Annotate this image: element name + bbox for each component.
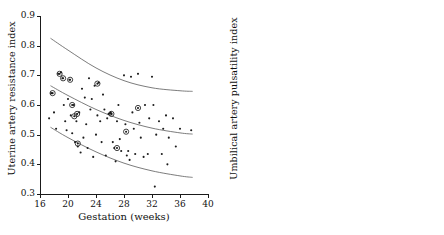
x-axis-tick (180, 195, 181, 198)
data-point (76, 113, 78, 115)
reference-percentile-line (51, 86, 193, 134)
y-axis-tick-label: 0.6 (8, 99, 35, 109)
data-point (110, 113, 112, 115)
data-point (130, 76, 132, 78)
data-point (147, 153, 149, 155)
data-point (80, 151, 82, 153)
plot-area-left: 0.30.40.50.60.70.80.916202428323640 (40, 16, 208, 194)
x-axis-tick-label: 20 (56, 199, 80, 209)
y-axis-tick-label: 0.5 (8, 129, 35, 139)
data-point (166, 163, 168, 165)
data-point (162, 128, 164, 130)
data-point (129, 159, 131, 161)
data-point (127, 150, 129, 152)
data-point (82, 137, 84, 139)
y-axis-label-right-text: Umbilical artery pulsatility index (228, 17, 239, 179)
figure-caption (0, 221, 444, 235)
x-axis-tick (68, 195, 69, 198)
x-axis-tick (124, 195, 125, 198)
data-point (126, 154, 128, 156)
data-point (154, 186, 156, 188)
data-point (140, 137, 142, 139)
reference-percentile-line (51, 38, 193, 91)
data-point (116, 147, 118, 149)
data-point (115, 160, 117, 162)
data-point (88, 77, 90, 79)
data-point (155, 134, 157, 136)
data-point (152, 104, 154, 106)
x-axis-tick (208, 195, 209, 198)
data-point (84, 97, 86, 99)
data-layer (40, 16, 208, 194)
data-point (131, 111, 133, 113)
y-axis-label-right: Umbilical artery pulsatility index (224, 0, 242, 196)
data-point (161, 153, 163, 155)
data-point (143, 156, 145, 158)
data-point (63, 104, 65, 106)
data-point (59, 73, 61, 75)
data-point (138, 122, 140, 124)
x-axis-tick-label: 24 (84, 199, 108, 209)
data-point (148, 117, 150, 119)
x-axis-tick (152, 195, 153, 198)
data-point (112, 141, 114, 143)
data-point (151, 76, 153, 78)
data-point (71, 104, 73, 106)
data-point (85, 123, 87, 125)
data-point (91, 98, 93, 100)
data-point (95, 134, 97, 136)
data-point (48, 117, 50, 119)
x-axis-tick-label: 32 (140, 199, 164, 209)
data-point (134, 153, 136, 155)
figure-two-panel-scatter: Uterine artery resistance index 0.30.40.… (0, 0, 444, 235)
x-axis-tick-label: 36 (168, 199, 192, 209)
data-point (172, 117, 174, 119)
data-point (117, 104, 119, 106)
data-point (158, 120, 160, 122)
data-point (125, 131, 127, 133)
data-point (102, 94, 104, 96)
data-point (119, 138, 121, 140)
panel-umbilical-artery: Umbilical artery pulsatility index 0.40.… (222, 0, 444, 235)
data-point (168, 137, 170, 139)
data-point (105, 154, 107, 156)
y-axis-tick-label: 0.8 (8, 40, 35, 50)
data-point (66, 129, 68, 131)
data-point (52, 92, 54, 94)
data-point (123, 74, 125, 76)
data-point (77, 143, 79, 145)
data-point (53, 111, 55, 113)
data-point (103, 108, 105, 110)
x-axis-tick-label: 40 (196, 199, 220, 209)
data-point (71, 132, 73, 134)
data-point (101, 141, 103, 143)
x-axis-tick (40, 195, 41, 198)
data-point (124, 123, 126, 125)
data-point (87, 147, 89, 149)
x-axis-tick-label: 16 (28, 199, 52, 209)
data-point (165, 114, 167, 116)
y-axis-tick-label: 0.4 (8, 158, 35, 168)
data-point (96, 114, 98, 116)
data-point (137, 107, 139, 109)
data-point (69, 79, 71, 81)
data-point (67, 98, 69, 100)
y-axis-tick-label: 0.7 (8, 69, 35, 79)
panel-uterine-artery: Uterine artery resistance index 0.30.40.… (0, 0, 222, 235)
data-point (179, 128, 181, 130)
x-axis-tick-label: 28 (112, 199, 136, 209)
data-point (137, 73, 139, 75)
y-axis-tick-label: 0.9 (8, 10, 35, 20)
data-point (99, 120, 101, 122)
data-point (106, 117, 108, 119)
data-point (89, 108, 91, 110)
data-point (55, 128, 57, 130)
y-axis-tick-label: 0.3 (8, 188, 35, 198)
reference-percentile-line (51, 127, 193, 177)
data-point (144, 104, 146, 106)
data-point (64, 120, 66, 122)
data-point (92, 156, 94, 158)
data-point (62, 77, 64, 79)
data-point (116, 120, 118, 122)
data-point (120, 150, 122, 152)
